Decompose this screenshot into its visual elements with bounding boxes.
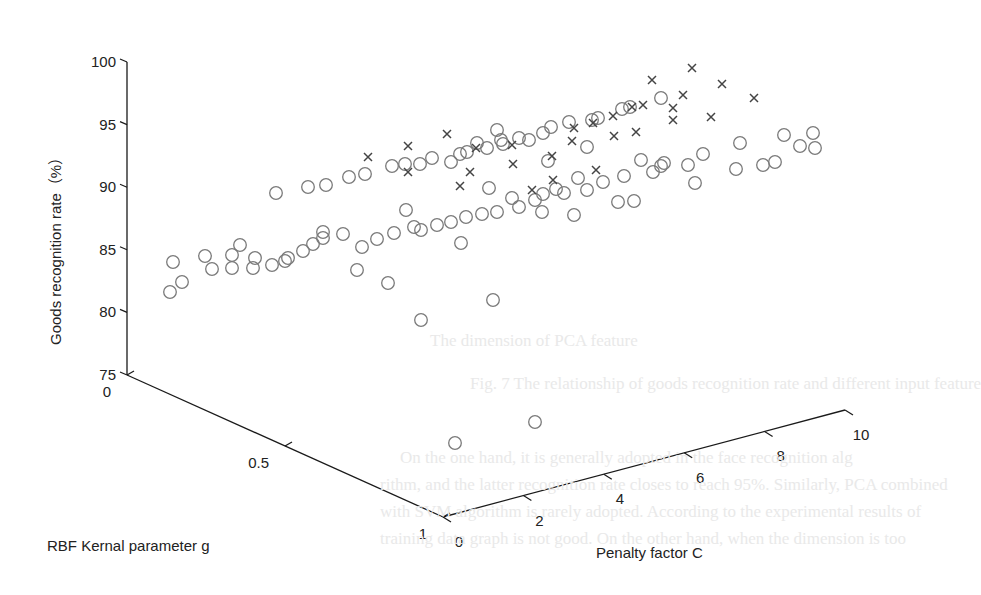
circle-marker bbox=[537, 188, 550, 201]
circle-marker bbox=[757, 159, 770, 172]
circle-marker bbox=[616, 103, 629, 116]
y-tick-label: 0.5 bbox=[248, 454, 269, 471]
circle-marker bbox=[618, 170, 631, 183]
circle-marker bbox=[809, 142, 822, 155]
x-tick-label: 0 bbox=[455, 533, 463, 550]
circle-marker bbox=[460, 211, 473, 224]
x-tick-label: 10 bbox=[853, 426, 870, 443]
cross-marker bbox=[592, 166, 600, 174]
cross-marker bbox=[648, 76, 656, 84]
circle-marker bbox=[481, 142, 494, 155]
cross-marker bbox=[688, 64, 696, 72]
circle-marker bbox=[320, 179, 333, 192]
cross-marker bbox=[639, 101, 647, 109]
circle-marker bbox=[282, 252, 295, 265]
circle-marker bbox=[449, 437, 462, 450]
circle-marker bbox=[400, 204, 413, 217]
circle-marker bbox=[624, 101, 637, 114]
cross-marker bbox=[548, 152, 556, 160]
circle-marker bbox=[445, 216, 458, 229]
cross-marker bbox=[509, 160, 517, 168]
circle-marker bbox=[689, 177, 702, 190]
circle-marker bbox=[386, 160, 399, 173]
circle-marker bbox=[476, 208, 489, 221]
circle-marker bbox=[351, 264, 364, 277]
circle-marker bbox=[581, 184, 594, 197]
circle-marker bbox=[491, 206, 504, 219]
y-axis-label: RBF Kernal parameter g bbox=[47, 537, 210, 554]
circle-marker bbox=[359, 168, 372, 181]
cross-marker bbox=[632, 128, 640, 136]
cross-marker bbox=[568, 137, 576, 145]
circle-marker bbox=[279, 255, 292, 268]
circle-marker bbox=[270, 187, 283, 200]
z-tick-label: 80 bbox=[99, 303, 116, 320]
circle-marker bbox=[461, 146, 474, 159]
cross-marker bbox=[628, 103, 636, 111]
circle-marker bbox=[536, 206, 549, 219]
circle-marker bbox=[572, 172, 585, 185]
cross-marker bbox=[466, 168, 474, 176]
circle-marker bbox=[550, 183, 563, 196]
circle-marker bbox=[487, 294, 500, 307]
circle-marker bbox=[206, 263, 219, 276]
circle-marker bbox=[382, 277, 395, 290]
circle-marker bbox=[226, 262, 239, 275]
circle-marker bbox=[807, 127, 820, 140]
circle-marker bbox=[655, 92, 668, 105]
circle-marker bbox=[302, 181, 315, 194]
circle-marker bbox=[199, 250, 212, 263]
circle-marker bbox=[537, 127, 550, 140]
circle-marker bbox=[529, 194, 542, 207]
cross-marker bbox=[718, 80, 726, 88]
axis-tick-labels: 758085909510000.510246810 bbox=[91, 53, 869, 550]
circle-marker bbox=[558, 187, 571, 200]
x-tick-label: 8 bbox=[776, 447, 784, 464]
circle-marker bbox=[769, 156, 782, 169]
cross-marker bbox=[669, 104, 677, 112]
circle-marker bbox=[628, 195, 641, 208]
circle-marker bbox=[506, 192, 519, 205]
cross-marker bbox=[456, 182, 464, 190]
z-tick-label: 85 bbox=[99, 241, 116, 258]
circle-marker bbox=[497, 138, 510, 151]
circle-marker bbox=[415, 224, 428, 237]
axis-ticks bbox=[120, 59, 853, 522]
circle-marker bbox=[612, 196, 625, 209]
circle-marker bbox=[647, 166, 660, 179]
z-tick-label: 95 bbox=[99, 116, 116, 133]
z-axis-label: Goods recognition rate（%） bbox=[47, 150, 64, 345]
circle-marker bbox=[655, 160, 668, 173]
circle-marker bbox=[581, 141, 594, 154]
y-tick-label: 1 bbox=[419, 525, 427, 542]
circle-marker bbox=[697, 148, 710, 161]
z-tick-label: 75 bbox=[99, 366, 116, 383]
x-axis-label: Penalty factor C bbox=[596, 544, 703, 561]
x-tick-label: 2 bbox=[535, 512, 543, 529]
cross-marker bbox=[443, 130, 451, 138]
z-tick-label: 90 bbox=[99, 178, 116, 195]
x-tick-label: 4 bbox=[616, 490, 624, 507]
circle-marker bbox=[545, 121, 558, 134]
cross-marker bbox=[404, 142, 412, 150]
cross-marker bbox=[364, 153, 372, 161]
circle-marker bbox=[455, 237, 468, 250]
cross-marker bbox=[610, 132, 618, 140]
cross-marker bbox=[750, 94, 758, 102]
data-markers bbox=[164, 64, 822, 449]
circle-marker bbox=[682, 159, 695, 172]
circle-marker bbox=[343, 171, 356, 184]
circle-marker bbox=[234, 239, 247, 252]
circle-marker bbox=[408, 221, 421, 234]
cross-marker bbox=[609, 112, 617, 120]
circle-marker bbox=[597, 176, 610, 189]
cross-marker bbox=[707, 113, 715, 121]
circle-marker bbox=[176, 276, 189, 289]
circle-marker bbox=[529, 416, 542, 429]
y-tick-label: 0 bbox=[103, 383, 111, 400]
cross-marker bbox=[669, 116, 677, 124]
circle-marker bbox=[658, 157, 671, 170]
circle-marker bbox=[164, 286, 177, 299]
circle-marker bbox=[266, 259, 279, 272]
